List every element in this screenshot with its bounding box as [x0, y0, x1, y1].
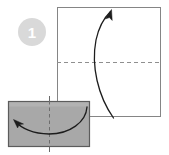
diagram-canvas: 1	[0, 0, 169, 155]
step-badge: 1	[18, 18, 46, 46]
step-badge-label: 1	[28, 24, 36, 41]
origami-step-diagram: 1	[0, 0, 169, 155]
